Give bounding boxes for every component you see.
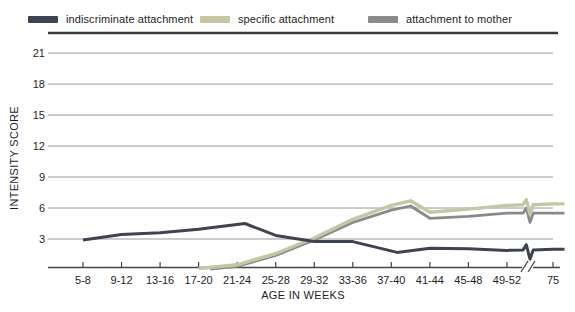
x-tick-label: 5-8 [75,274,91,286]
x-tick-label: 49-52 [493,274,521,286]
y-tick-label: 15 [33,109,45,121]
x-tick-label: 17-20 [185,274,213,286]
x-axis-title: AGE IN WEEKS [261,289,345,301]
x-tick-label: 75 [547,274,559,286]
y-tick-label: 12 [33,140,45,152]
x-tick-label: 37-40 [377,274,405,286]
series-line-attachment-to-mother [210,206,564,269]
series-line-indiscriminate-attachment [83,224,565,260]
y-tick-label: 21 [33,47,45,59]
x-tick-label: 25-28 [262,274,290,286]
y-axis-title: INTENSITY SCORE [8,106,20,210]
x-tick-label: 29-32 [300,274,328,286]
x-tick-label: 45-48 [454,274,482,286]
series-line-specific-attachment [199,200,565,269]
y-tick-label: 9 [39,171,45,183]
attachment-intensity-chart: 369121518215-89-1213-1617-2021-2425-2829… [0,0,575,312]
x-tick-label: 13-16 [146,274,174,286]
x-tick-label: 21-24 [223,274,251,286]
x-tick-label: 33-36 [339,274,367,286]
y-tick-label: 18 [33,78,45,90]
y-tick-label: 3 [39,233,45,245]
x-tick-label: 41-44 [416,274,444,286]
y-tick-label: 6 [39,202,45,214]
x-tick-label: 9-12 [111,274,133,286]
